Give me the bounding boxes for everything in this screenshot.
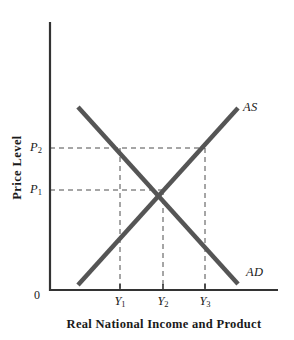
x-tick-label-y1: Y1 [105,294,135,309]
x-tick-label-y3: Y3 [190,294,220,309]
origin-label: 0 [34,288,40,303]
y-tick-label-p1: P1 [12,182,42,197]
x-tick-label-y2: Y2 [148,294,178,309]
chart-plot-area [0,0,294,340]
x-axis-title: Real National Income and Product [50,317,278,332]
y-tick-label-p2: P2 [12,140,42,155]
aggregate-demand-curve-label: AD [246,265,263,280]
aggregate-supply-demand-chart: Price Level Real National Income and Pro… [0,0,294,340]
aggregate-supply-curve-label: AS [243,100,258,115]
